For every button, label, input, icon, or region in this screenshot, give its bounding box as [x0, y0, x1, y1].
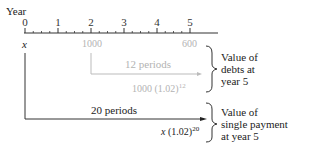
tick-label-4: 4	[154, 16, 160, 28]
single-payment-brace	[206, 103, 217, 142]
debts-brace	[206, 46, 217, 92]
single-payment-variable: x	[22, 38, 27, 50]
tick-label-5: 5	[187, 16, 193, 28]
single-payment-brace-label: Value of single payment at year 5	[221, 106, 288, 142]
debt-payment-year-2: 1000	[82, 38, 102, 49]
debt-arrowhead	[197, 72, 202, 76]
single-payment-periods-label: 20 periods	[91, 104, 137, 116]
debt-payment-year-5: 600	[182, 38, 197, 49]
single-payment-future-value: x (1.02)20	[161, 125, 199, 137]
tick-label-1: 1	[55, 16, 61, 28]
debt-periods-label: 12 periods	[125, 58, 171, 70]
tick-label-0: 0	[22, 16, 28, 28]
tick-label-2: 2	[88, 16, 94, 28]
debt-future-value: 1000 (1.02)12	[132, 82, 186, 94]
single-payment-arrowhead	[200, 117, 207, 121]
debts-brace-label: Value of debts at year 5	[221, 51, 258, 87]
tick-label-3: 3	[121, 16, 127, 28]
